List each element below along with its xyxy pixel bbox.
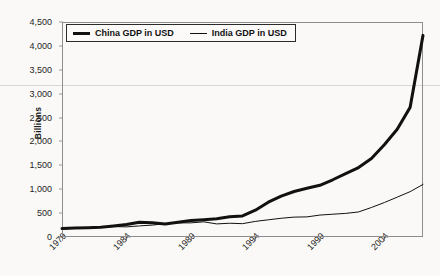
chart-legend: China GDP in USD India GDP in USD (66, 24, 296, 42)
legend-swatch-china-icon (73, 32, 90, 35)
legend-item-china: China GDP in USD (73, 28, 174, 38)
series-line-china (62, 35, 423, 228)
legend-label-china: China GDP in USD (95, 28, 174, 38)
legend-swatch-india-icon (190, 33, 207, 34)
series-line-india (62, 184, 423, 229)
legend-item-india: India GDP in USD (190, 28, 287, 38)
gdp-line-chart: Billions 05001,0001,5002,0002,5003,0003,… (0, 0, 440, 276)
legend-label-india: India GDP in USD (212, 28, 287, 38)
